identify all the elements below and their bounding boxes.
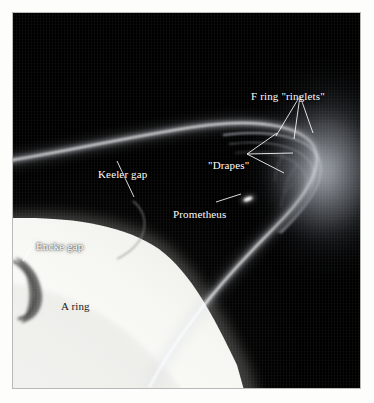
annotation-label-f-ring-ringlets: F ring "ringlets" (251, 91, 325, 103)
figure-page: F ring "ringlets" "Drapes" Keeler gap Pr… (0, 0, 374, 403)
annotation-label-a-ring: A ring (61, 301, 90, 313)
astronomical-photograph: F ring "ringlets" "Drapes" Keeler gap Pr… (13, 13, 360, 388)
ring-system-artwork (13, 13, 360, 388)
leader-prometheus (216, 194, 241, 202)
annotation-label-prometheus: Prometheus (173, 209, 226, 221)
annotation-label-encke-gap: Encke gap (36, 241, 83, 253)
prometheus-moon (239, 193, 257, 206)
a-ring-body (13, 212, 263, 388)
annotation-label-drapes: "Drapes" (208, 160, 249, 172)
annotation-label-keeler-gap: Keeler gap (98, 169, 147, 181)
